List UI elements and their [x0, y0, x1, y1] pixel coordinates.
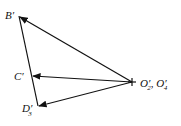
- edge-o-b: [20, 17, 132, 82]
- label-b: B′: [5, 9, 15, 21]
- label-c: C′: [14, 70, 24, 82]
- edge-b-d3: [19, 16, 38, 106]
- label-o: O′2, O′4: [140, 77, 168, 92]
- label-d3: D′3: [21, 102, 33, 118]
- edge-o-d3: [39, 82, 132, 106]
- edge-o-c: [33, 76, 132, 82]
- origin-cross-icon: [128, 78, 136, 86]
- velocity-diagram: B′ C′ D′3 O′2, O′4: [0, 0, 181, 126]
